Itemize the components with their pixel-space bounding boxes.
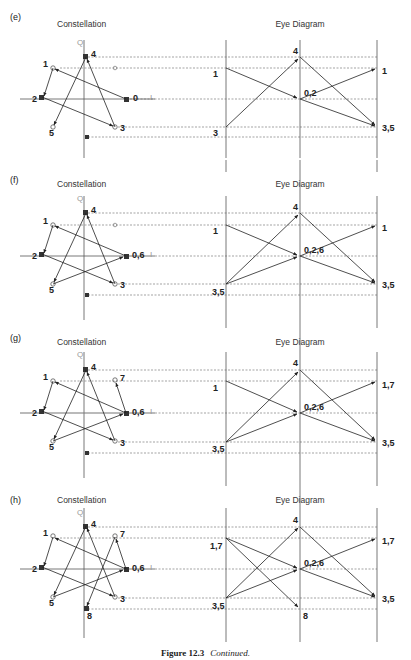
q-axis-label: Q	[77, 38, 83, 47]
point-label: 2	[32, 94, 37, 104]
level-lines	[60, 527, 377, 609]
panel-tag: (h)	[10, 495, 21, 505]
point-label: 2	[32, 564, 37, 574]
eye-traces	[226, 213, 375, 284]
panel-tag: (f)	[10, 175, 19, 185]
point-label: 4	[91, 519, 96, 529]
panel-h: (h) Constellation Eye Diagram Q I	[10, 478, 395, 642]
point-label: 4	[91, 49, 96, 59]
constellation-title: Constellation	[57, 495, 106, 505]
eye-left-label: 1	[213, 69, 218, 79]
eye-left-label: 3,5	[212, 601, 225, 611]
eye-right-label: 3,5	[382, 280, 395, 290]
eye-right-label: 1,7	[382, 380, 395, 390]
panel-g: (g) Constellation Eye Diagram Q I	[10, 320, 395, 478]
point-label: 3	[120, 594, 125, 604]
eye-right-label: 3,5	[382, 123, 395, 133]
eye-left-label: 1,7	[210, 541, 223, 551]
caption-text: Continued.	[210, 648, 250, 658]
eye-right-label: 1	[382, 66, 387, 76]
eye-left-label: 1	[213, 383, 218, 393]
point-label: 7	[120, 373, 125, 383]
point-label: 7	[120, 529, 125, 539]
eye-traces	[226, 527, 375, 607]
eye-right-label: 3,5	[382, 594, 395, 604]
eye-right-label: 3,5	[382, 438, 395, 448]
point-label: 5	[49, 128, 54, 138]
point-label: 5	[49, 442, 54, 452]
panel-tag: (g)	[10, 333, 21, 343]
eye-mid-label: 4	[293, 46, 298, 56]
eye-mid-label: 4	[293, 358, 298, 368]
eye-mid-label: 0,2,6	[304, 402, 324, 412]
constellation-title: Constellation	[57, 19, 106, 29]
point-label: 3	[120, 123, 125, 133]
eye-right-label: 1	[382, 223, 387, 233]
eye-right-label: 1,7	[382, 536, 395, 546]
point-label: 4	[91, 362, 96, 372]
constellation-title: Constellation	[57, 337, 106, 347]
point-label: 1	[43, 59, 48, 69]
figure-caption: Figure 12.3Continued.	[0, 648, 411, 658]
eye-mid-label: 4	[293, 515, 298, 525]
point-label: 5	[49, 598, 54, 608]
point-label: 5	[49, 285, 54, 295]
panel-tag: (e)	[10, 12, 21, 22]
eye-left-label: 3,5	[212, 444, 225, 454]
point-label: 2	[32, 251, 37, 261]
eye-mid-label: 0,2,6	[304, 558, 324, 568]
point-label: 2	[32, 408, 37, 418]
q-axis-label: Q	[77, 194, 83, 203]
level-lines	[60, 370, 377, 453]
point-label: 4	[91, 205, 96, 215]
point-label: 8	[87, 611, 92, 621]
point-label: 3	[120, 280, 125, 290]
eye-traces	[226, 57, 375, 127]
eye-mid-label: 0,2,6	[304, 245, 324, 255]
point-label: 1	[43, 372, 48, 382]
panel-f: (f) Constellation Eye Diagram Q I	[10, 160, 395, 320]
caption-label: Figure 12.3	[161, 648, 204, 658]
panel-e: (e) Constellation Eye Diagram Q I	[10, 12, 395, 158]
point-label: 0,6	[132, 250, 145, 260]
i-axis-label: I	[150, 250, 152, 259]
eye-mid-label: 0,2	[304, 88, 317, 98]
eye-traces	[226, 370, 375, 442]
q-axis-label: Q	[77, 350, 83, 359]
level-lines	[60, 57, 377, 137]
point-label: 0,6	[132, 563, 145, 573]
i-axis-label: I	[150, 407, 152, 416]
constellation-title: Constellation	[57, 179, 106, 189]
eye-left-label: 1	[213, 226, 218, 236]
eye-left-label: 3,5	[212, 287, 225, 297]
point-label: 1	[43, 528, 48, 538]
i-axis-label: I	[150, 93, 152, 102]
point-label: 0,6	[132, 407, 145, 417]
eye-diagram-title: Eye Diagram	[275, 19, 324, 29]
i-axis-label: I	[150, 563, 152, 572]
point-label: 1	[43, 216, 48, 226]
level-lines	[60, 213, 377, 295]
eye-left-label: 3	[213, 128, 218, 138]
eye-mid-label: 4	[293, 202, 298, 212]
figure-canvas: (e) Constellation Eye Diagram Q I	[0, 0, 411, 660]
point-label: 3	[120, 438, 125, 448]
point-label: 0	[133, 93, 138, 103]
q-axis-label: Q	[77, 508, 83, 517]
eye-mid-label: 8	[303, 611, 308, 621]
